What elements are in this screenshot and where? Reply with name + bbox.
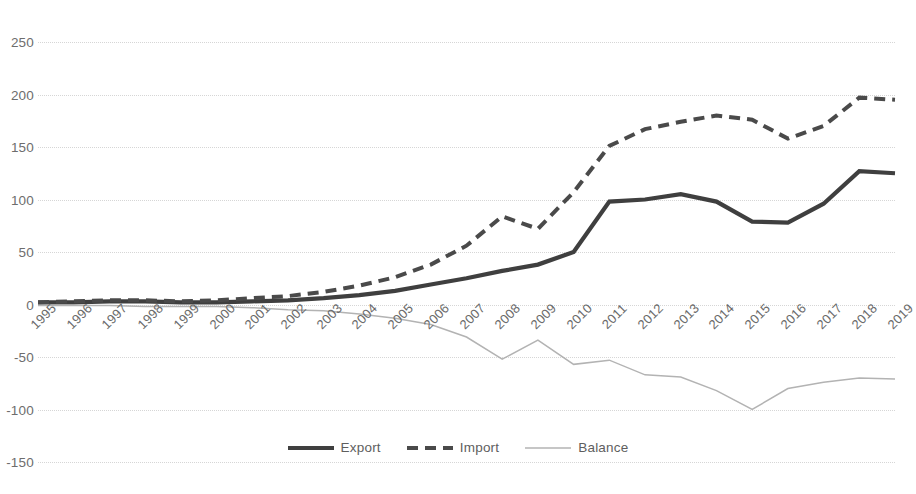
legend-label: Import bbox=[460, 440, 499, 455]
y-tick-label: 0 bbox=[0, 297, 34, 312]
series-line-import bbox=[38, 98, 895, 303]
legend-label: Balance bbox=[578, 440, 628, 455]
thin-line-swatch bbox=[525, 442, 571, 454]
y-tick-label: -150 bbox=[0, 455, 34, 470]
legend-label: Export bbox=[341, 440, 381, 455]
y-tick-label: 50 bbox=[0, 245, 34, 260]
y-tick-label: 200 bbox=[0, 87, 34, 102]
legend-item-export[interactable]: Export bbox=[288, 440, 381, 455]
y-tick-label: -100 bbox=[0, 402, 34, 417]
solid-thick-line-swatch bbox=[288, 442, 334, 454]
gridline bbox=[38, 462, 895, 463]
series-line-export bbox=[38, 171, 895, 302]
y-tick-label: 250 bbox=[0, 35, 34, 50]
line-chart: 250200150100500-50-100-150 1995199619971… bbox=[0, 0, 916, 494]
chart-legend: ExportImportBalance bbox=[0, 440, 916, 455]
dashed-line-swatch bbox=[407, 442, 453, 454]
series-line-balance bbox=[38, 306, 895, 410]
series-layer bbox=[38, 42, 895, 462]
y-tick-label: 100 bbox=[0, 192, 34, 207]
y-axis: 250200150100500-50-100-150 bbox=[0, 42, 34, 462]
plot-area bbox=[38, 42, 895, 462]
y-tick-label: -50 bbox=[0, 350, 34, 365]
legend-item-import[interactable]: Import bbox=[407, 440, 499, 455]
legend-item-balance[interactable]: Balance bbox=[525, 440, 628, 455]
y-tick-label: 150 bbox=[0, 140, 34, 155]
